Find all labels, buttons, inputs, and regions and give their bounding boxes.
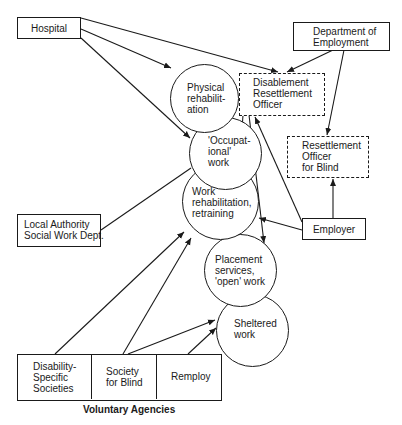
node-resettlement-officer-blind: Resettlement Officer for Blind: [287, 136, 369, 178]
node-placement-services: Placement services, 'open' work: [204, 234, 277, 307]
node-disability-specific-societies: Disability- Specific Societies: [18, 355, 92, 399]
node-label: Sheltered work: [234, 318, 277, 340]
voluntary-agencies-caption: Voluntary Agencies: [83, 404, 175, 415]
node-label: Work rehabilitation, retraining: [192, 186, 251, 219]
node-label: Disablement Resettlement Officer: [253, 77, 312, 110]
node-label: Department of Employment: [313, 26, 376, 48]
node-label: Remploy: [171, 371, 210, 382]
node-label: Society for Blind: [106, 366, 143, 388]
node-disablement-resettlement-officer: Disablement Resettlement Officer: [239, 73, 325, 116]
node-label: Resettlement Officer for Blind: [302, 140, 361, 173]
node-society-for-blind: Society for Blind: [92, 355, 157, 399]
node-label: Disability- Specific Societies: [33, 361, 76, 394]
node-label: Employer: [313, 224, 355, 235]
node-employer: Employer: [302, 218, 366, 240]
voluntary-agencies-group: Disability- Specific Societies Society f…: [17, 354, 222, 401]
node-physical-rehabilitation: Physical rehabilit- ation: [170, 64, 239, 133]
node-label: Placement services, 'open' work: [215, 254, 265, 287]
node-label: Local Authority Social Work Dept.: [24, 219, 104, 241]
node-department-of-employment: Department of Employment: [293, 22, 390, 51]
node-hospital: Hospital: [17, 17, 81, 39]
node-label: Hospital: [31, 23, 67, 34]
node-remploy: Remploy: [157, 355, 221, 399]
node-local-authority: Local Authority Social Work Dept.: [17, 214, 101, 247]
node-label: Physical rehabilit- ation: [187, 82, 225, 115]
node-label: 'Occupat- ional' work: [208, 135, 250, 168]
